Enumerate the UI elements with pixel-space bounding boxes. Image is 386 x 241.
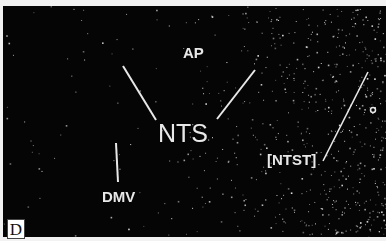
dmv-pointer bbox=[116, 143, 118, 182]
label-ap: AP bbox=[183, 44, 204, 61]
ntst-pointer bbox=[323, 72, 368, 161]
marker-circle bbox=[371, 108, 376, 113]
micrograph-panel: AP NTS DMV [NTST] bbox=[3, 6, 386, 237]
label-ntst: [NTST] bbox=[267, 151, 316, 168]
label-dmv: DMV bbox=[102, 188, 135, 205]
nts-pointer-right bbox=[217, 70, 255, 119]
nts-pointer-left bbox=[123, 66, 156, 120]
label-nts: NTS bbox=[158, 119, 208, 148]
panel-letter: D bbox=[7, 219, 25, 239]
